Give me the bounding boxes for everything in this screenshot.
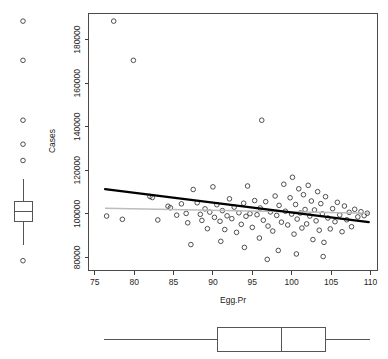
data-point [309, 199, 314, 204]
data-point [242, 245, 247, 250]
data-point [311, 237, 316, 242]
data-point [263, 199, 268, 204]
data-point [322, 240, 327, 245]
y-bp-outlier [21, 258, 26, 263]
data-point [288, 195, 293, 200]
x-marginal-boxplot [104, 327, 369, 351]
data-point [227, 197, 232, 202]
data-point [294, 252, 299, 257]
y-tick-label: 80000 [73, 245, 83, 269]
data-point [319, 201, 324, 206]
data-point [306, 183, 311, 188]
data-point [185, 221, 190, 226]
data-point [333, 219, 338, 224]
x-tick-label: 80 [129, 277, 139, 287]
data-point [266, 224, 271, 229]
data-point [245, 184, 250, 189]
y-tick-label: 120000 [73, 156, 83, 185]
data-point [234, 230, 239, 235]
data-point [212, 215, 217, 220]
data-point [321, 254, 326, 259]
data-point [241, 201, 246, 206]
data-point [189, 242, 194, 247]
x-axis-title: Egg.Pr [220, 295, 246, 305]
x-tick-label: 75 [90, 277, 100, 287]
y-axis-tick-labels: 80000100000120000140000160000180000 [73, 25, 83, 269]
x-tick-label: 85 [169, 277, 179, 287]
data-point [276, 248, 281, 253]
data-point [323, 194, 328, 199]
data-point [349, 224, 354, 229]
y-bp-outlier [21, 158, 26, 163]
data-point [222, 227, 227, 232]
data-point [295, 217, 300, 222]
data-point [290, 175, 295, 180]
data-point [285, 223, 290, 228]
data-point [301, 192, 306, 197]
x-axis-tick-labels: 7580859095100105110 [90, 277, 377, 287]
data-point [131, 58, 136, 63]
data-point [340, 229, 345, 234]
data-point [296, 187, 301, 192]
data-point [120, 217, 125, 222]
y-axis-title: Cases [47, 129, 57, 153]
data-point [104, 214, 109, 219]
x-tick-label: 90 [208, 277, 218, 287]
y-tick-label: 140000 [73, 112, 83, 141]
y-tick-label: 180000 [73, 25, 83, 54]
data-point [239, 222, 244, 227]
data-point [335, 200, 340, 205]
data-point [279, 220, 284, 225]
data-point [330, 206, 335, 211]
data-point [179, 202, 184, 207]
data-point [293, 202, 298, 207]
y-axis-ticks [85, 40, 89, 258]
x-tick-label: 95 [248, 277, 258, 287]
x-tick-label: 105 [324, 277, 338, 287]
plot-frame [89, 14, 378, 271]
data-point [270, 229, 275, 234]
y-tick-label: 100000 [73, 199, 83, 228]
data-point [218, 239, 223, 244]
scatter-points [104, 19, 369, 262]
y-bp-outlier [21, 58, 26, 63]
data-point [205, 226, 210, 231]
data-point [191, 187, 196, 192]
data-point [277, 203, 282, 208]
chart-root: 80000100000120000140000160000180000 7580… [0, 0, 388, 359]
data-point [342, 204, 347, 209]
data-point [265, 257, 270, 262]
x-bp-box [218, 327, 326, 351]
data-point [230, 216, 235, 221]
y-bp-outlier [21, 19, 26, 24]
y-bp-outlier [21, 142, 26, 147]
data-point [317, 228, 322, 233]
data-point [304, 222, 309, 227]
data-point [261, 218, 266, 223]
data-point [225, 214, 230, 219]
data-point [174, 213, 179, 218]
x-tick-label: 110 [364, 277, 378, 287]
data-point [356, 215, 361, 220]
data-point [257, 236, 262, 241]
data-point [281, 182, 286, 187]
data-point [218, 219, 223, 224]
data-point [248, 211, 253, 216]
data-point [156, 218, 161, 223]
scatterplot-with-marginal-boxplots: 80000100000120000140000160000180000 7580… [0, 0, 388, 359]
data-point [255, 212, 260, 217]
data-point [303, 207, 308, 212]
data-point [211, 185, 216, 190]
data-point [184, 211, 189, 216]
data-point [274, 213, 279, 218]
y-tick-label: 160000 [73, 69, 83, 98]
regression-fit-line [105, 189, 369, 222]
data-point [300, 226, 305, 231]
data-point [328, 227, 333, 232]
data-point [362, 213, 367, 218]
y-bp-outlier [21, 118, 26, 123]
y-marginal-boxplot [14, 19, 32, 263]
data-point [259, 118, 264, 123]
data-point [292, 232, 297, 237]
x-tick-label: 100 [285, 277, 299, 287]
